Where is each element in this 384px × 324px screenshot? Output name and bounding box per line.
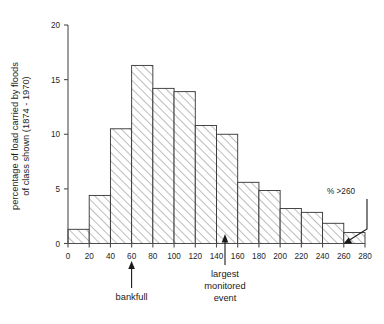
bar <box>217 134 238 243</box>
x-tick-label: 100 <box>167 252 181 261</box>
y-axis-label-line2: of class shown (1874 - 1970) <box>21 76 31 195</box>
x-tick-label: 40 <box>106 252 116 261</box>
annotation-largest-line3: event <box>214 293 237 303</box>
x-tick-label: 120 <box>188 252 202 261</box>
x-tick-label: 180 <box>252 252 266 261</box>
chart-figure: 05101520 0204060801001201401601802002202… <box>0 0 384 324</box>
bar <box>68 229 89 243</box>
annotation-over260-label: % >260 <box>327 187 355 196</box>
bar <box>259 191 280 244</box>
x-tick-label: 140 <box>210 252 224 261</box>
x-tick-label: 280 <box>358 252 372 261</box>
histogram-chart: 05101520 0204060801001201401601802002202… <box>0 0 384 324</box>
bar <box>195 126 216 244</box>
y-tick-label: 10 <box>51 130 61 139</box>
y-axis-label: percentage of load carried by floods of … <box>10 62 31 210</box>
x-tick-label: 200 <box>273 252 287 261</box>
x-tick-label: 160 <box>231 252 245 261</box>
y-tick-label: 0 <box>55 240 60 249</box>
bar <box>110 129 131 244</box>
y-axis-label-line1: percentage of load carried by floods <box>10 62 20 210</box>
x-tick-label: 60 <box>127 252 137 261</box>
bar <box>280 209 301 244</box>
x-tick-label: 260 <box>337 252 351 261</box>
y-tick-label: 5 <box>55 185 60 194</box>
annotation-largest-line2: monitored <box>204 281 245 291</box>
bar <box>323 223 344 243</box>
bars-group <box>68 65 365 243</box>
bar <box>238 182 259 243</box>
annotation-largest-monitored-event: largest monitored event <box>204 234 245 303</box>
x-tick-label: 80 <box>148 252 158 261</box>
annotation-bankfull-label: bankfull <box>116 292 148 302</box>
bar <box>132 65 153 243</box>
bar <box>89 195 110 243</box>
annotation-largest-line1: largest <box>211 269 239 279</box>
x-tick-label: 220 <box>295 252 309 261</box>
x-tick-label: 240 <box>316 252 330 261</box>
annotation-bankfull: bankfull <box>116 261 148 302</box>
y-tick-label: 15 <box>51 76 61 85</box>
x-tick-label: 20 <box>85 252 95 261</box>
bar <box>174 92 195 244</box>
y-axis: 05101520 <box>51 21 68 249</box>
bar <box>301 212 322 243</box>
y-tick-label: 20 <box>51 21 61 30</box>
x-axis: 020406080100120140160180200220240260280 <box>66 244 373 261</box>
bar <box>153 88 174 243</box>
x-tick-label: 0 <box>66 252 71 261</box>
